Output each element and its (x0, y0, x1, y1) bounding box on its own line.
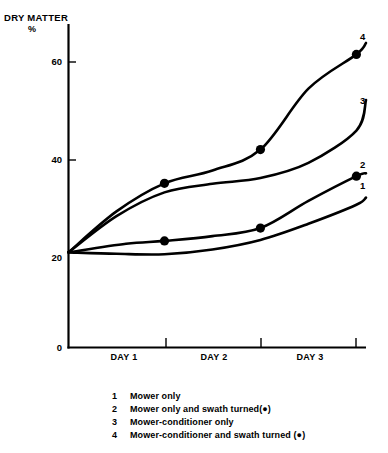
legend-item-1: 1 Mower only (112, 391, 388, 404)
axes (67, 24, 366, 349)
x-tick-label-day-1: DAY 1 (82, 352, 166, 362)
legend-key-2: 2 (112, 404, 130, 414)
legend: 1 Mower only 2 Mower only and swath turn… (112, 391, 388, 443)
legend-item-3: 3 Mower-conditioner only (112, 417, 388, 430)
data-point-marker-series-4 (256, 145, 265, 154)
legend-item-2: 2 Mower only and swath turned(●) (112, 404, 388, 417)
y-tick-label-0: 0 (40, 342, 62, 353)
legend-item-4: 4 Mower-conditioner and swath turned (●) (112, 430, 388, 443)
x-tick-label-day-3: DAY 3 (268, 352, 352, 362)
y-tick-label-40: 40 (40, 154, 62, 165)
data-point-marker-series-4 (160, 179, 169, 188)
series-end-label-3: 3 (360, 95, 365, 106)
plot-area (0, 0, 388, 453)
legend-key-1: 1 (112, 391, 130, 401)
series-end-label-1: 1 (360, 180, 365, 191)
series-curve-3 (69, 100, 367, 252)
y-axis-title: DRY MATTER (4, 12, 68, 23)
legend-label-2: Mower only and swath turned(●) (130, 404, 271, 414)
data-point-marker-series-2 (160, 236, 169, 245)
y-tick-label-20: 20 (40, 252, 62, 263)
x-tick-label-day-2: DAY 2 (172, 352, 256, 362)
y-tick-label-60: 60 (40, 56, 62, 67)
legend-key-4: 4 (112, 430, 130, 440)
legend-label-4: Mower-conditioner and swath turned (●) (130, 430, 305, 440)
dry-matter-line-chart: DRY MATTER % 60 40 20 0 DAY 1 DAY 2 DAY … (0, 0, 388, 453)
series-curve-4 (69, 43, 367, 252)
legend-label-3: Mower-conditioner only (130, 417, 234, 427)
series-end-label-2: 2 (360, 159, 365, 170)
y-axis-unit: % (28, 24, 36, 34)
legend-key-3: 3 (112, 417, 130, 427)
series-end-label-4: 4 (360, 31, 365, 42)
legend-label-1: Mower only (130, 391, 181, 401)
series-curves (69, 43, 367, 255)
data-point-marker-series-4 (352, 50, 361, 59)
data-point-marker-series-2 (256, 223, 265, 232)
